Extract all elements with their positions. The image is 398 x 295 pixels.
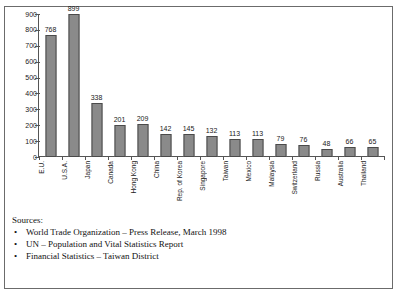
x-axis-category-label: Rep. of Korea [176, 161, 183, 201]
bar [298, 145, 309, 157]
bar-value-label: 768 [45, 26, 57, 33]
bullet-icon: • [14, 250, 17, 262]
bar [183, 134, 194, 157]
bullet-icon: • [14, 226, 17, 238]
y-axis-tick: 800 [9, 26, 37, 33]
bar-value-label: 145 [183, 125, 195, 132]
y-axis-tick-label: 600 [13, 58, 37, 65]
y-axis-tick: 300 [9, 106, 37, 113]
x-axis-category-labels: E.U.U.S.A.JapanCanadaHong KongChinaRep. … [30, 161, 375, 209]
x-axis-tick-mark [108, 156, 109, 160]
bar-value-label: 48 [323, 140, 331, 147]
x-axis-category-label: Singapore [199, 161, 206, 191]
chart-figure: 0100200300400500600700800900 76889933820… [0, 0, 398, 295]
bar-value-label: 113 [252, 130, 263, 137]
x-axis-category-label: Mexico [245, 161, 252, 182]
y-axis-tick: 500 [9, 74, 37, 81]
bar-value-label: 113 [229, 130, 240, 137]
bar [91, 103, 102, 157]
source-item-text: UN – Population and Vital Statistics Rep… [26, 239, 183, 249]
y-axis-tick: 600 [9, 58, 37, 65]
x-axis-tick-mark [62, 156, 63, 160]
x-axis-category-label: Thailand [360, 161, 367, 186]
x-axis-category-label: Australia [337, 161, 344, 186]
x-axis-category-label: Russia [314, 161, 321, 181]
bar [137, 124, 148, 157]
bar-slot: 201 [108, 14, 131, 157]
bar-slot: 145 [177, 14, 200, 157]
x-axis-tick-mark [338, 156, 339, 160]
source-item: •World Trade Organization – Press Releas… [12, 226, 342, 238]
bar-value-label: 338 [91, 94, 103, 101]
bar-slot: 76 [292, 14, 315, 157]
x-axis-tick-mark [315, 156, 316, 160]
y-axis-tick-label: 300 [13, 106, 37, 113]
bar [160, 134, 171, 157]
x-axis-tick-mark [39, 156, 40, 160]
y-axis-tick: 700 [9, 42, 37, 49]
y-axis-tick: 0 [9, 154, 37, 161]
x-axis-tick-mark [154, 156, 155, 160]
bar [68, 14, 79, 157]
x-axis-category-label: China [153, 161, 160, 178]
sources-block: Sources: •World Trade Organization – Pre… [12, 214, 342, 262]
bar [114, 125, 125, 157]
bar-slot: 113 [246, 14, 269, 157]
bullet-icon: • [14, 238, 17, 250]
source-item: •UN – Population and Vital Statistics Re… [12, 238, 342, 250]
bar-value-label: 899 [68, 5, 80, 12]
y-axis-tick-label: 800 [13, 26, 37, 33]
y-axis-tick-label: 900 [13, 11, 37, 18]
bar-slot: 65 [361, 14, 384, 157]
sources-heading: Sources: [12, 214, 342, 226]
bar [206, 136, 217, 157]
sources-list: •World Trade Organization – Press Releas… [12, 226, 342, 262]
x-axis-tick-mark [131, 156, 132, 160]
y-axis-tick: 100 [9, 138, 37, 145]
bar-value-label: 76 [300, 136, 308, 143]
y-axis-tick-label: 700 [13, 42, 37, 49]
bar [275, 144, 286, 157]
y-axis-tick-label: 400 [13, 90, 37, 97]
x-axis-tick-mark [361, 156, 362, 160]
x-axis-category-label: U.S.A. [61, 161, 68, 180]
x-axis-tick-mark [292, 156, 293, 160]
bar-value-label: 132 [206, 127, 218, 134]
x-axis-tick-mark [246, 156, 247, 160]
bar-value-label: 201 [114, 116, 126, 123]
x-axis-category-label: E.U. [38, 161, 45, 174]
source-item-text: Financial Statistics – Taiwan District [26, 251, 159, 261]
y-axis-tick-label: 500 [13, 74, 37, 81]
bar-slot: 79 [269, 14, 292, 157]
bar-slot: 113 [223, 14, 246, 157]
bar-slot: 66 [338, 14, 361, 157]
x-axis-tick-mark [200, 156, 201, 160]
x-axis-category-label: Hong Kong [130, 161, 137, 194]
x-axis-tick-mark [177, 156, 178, 160]
source-item-text: World Trade Organization – Press Release… [26, 227, 227, 237]
x-axis-tick-mark [223, 156, 224, 160]
bar [321, 149, 332, 157]
x-axis-category-label: Switzerland [291, 161, 298, 195]
y-axis-tick: 200 [9, 122, 37, 129]
bar [252, 139, 263, 157]
bar-value-label: 66 [346, 138, 354, 145]
bar-slot: 209 [131, 14, 154, 157]
plot-area: 0100200300400500600700800900 76889933820… [9, 10, 384, 157]
bar-slot: 132 [200, 14, 223, 157]
y-axis-tick: 400 [9, 90, 37, 97]
x-axis-category-label: Japan [84, 161, 91, 179]
y-axis-tick-label: 0 [13, 154, 37, 161]
bar [45, 35, 56, 157]
bar [344, 147, 355, 157]
bar-slot: 338 [85, 14, 108, 157]
bar-value-label: 79 [277, 135, 285, 142]
x-axis-category-label: Canada [107, 161, 114, 184]
x-axis-tick-mark [384, 156, 385, 160]
bar-slot: 899 [62, 14, 85, 157]
x-axis-tick-mark [269, 156, 270, 160]
bar [367, 147, 378, 157]
bar-value-label: 65 [369, 138, 377, 145]
bar [229, 139, 240, 157]
bar-series: 7688993382012091421451321131137976486665 [39, 14, 384, 157]
